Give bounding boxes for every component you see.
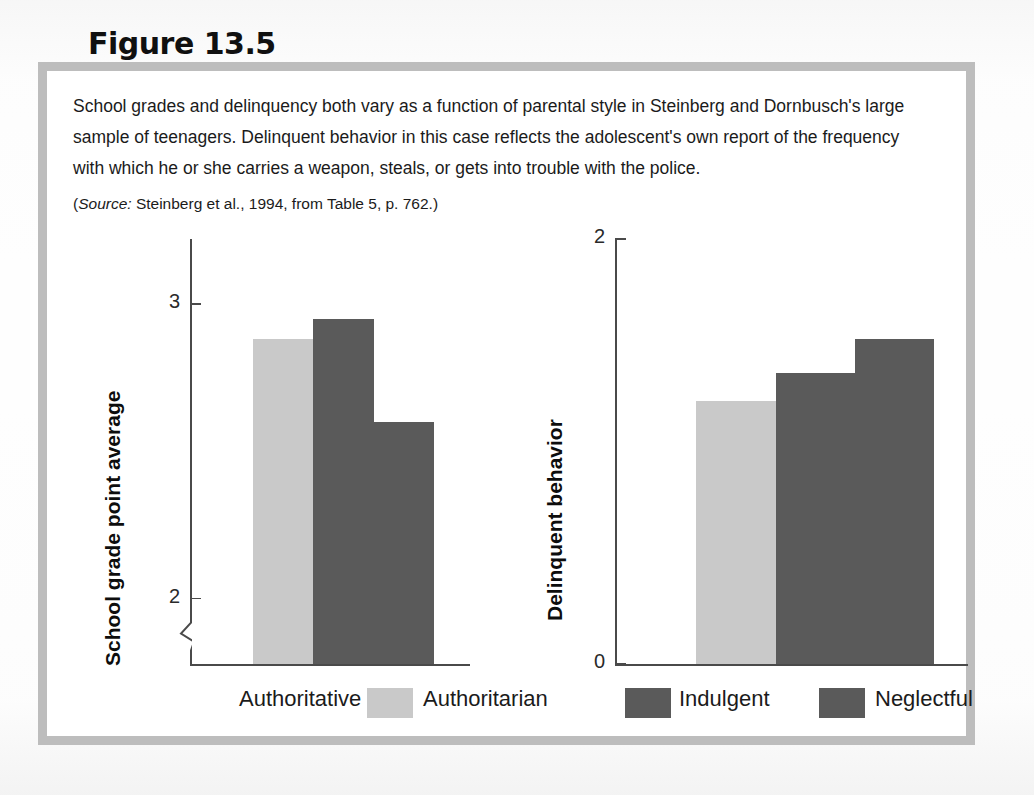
y-axis-tick-label: 3: [146, 290, 180, 313]
y-axis-tick: [615, 663, 626, 665]
figure-panel: School grades and delinquency both vary …: [47, 71, 966, 736]
bar-authoritarian: [253, 339, 314, 664]
source-label: Source:: [78, 195, 131, 212]
x-axis-line: [190, 664, 470, 666]
bar-neglectful: [855, 339, 934, 664]
y-axis-tick-label: 2: [146, 585, 180, 608]
chart-school-grades: School grade point average 23: [87, 221, 517, 676]
figure-caption: School grades and delinquency both vary …: [73, 91, 935, 184]
legend-label-neglectful: Neglectful: [875, 686, 973, 712]
y-axis-tick: [615, 238, 626, 240]
legend: AuthoritativeAuthoritarianIndulgentNegle…: [47, 686, 966, 736]
y-axis-line: [615, 239, 617, 664]
y-axis-tick: [190, 303, 201, 305]
bar-authoritative: [192, 599, 253, 664]
legend-swatch-indulgent: [625, 688, 671, 718]
legend-swatch-authoritative: [187, 688, 233, 718]
bar-authoritarian: [696, 401, 775, 665]
legend-swatch-authoritarian: [367, 688, 413, 718]
legend-label-authoritarian: Authoritarian: [423, 686, 548, 712]
charts-container: School grade point average 23 Delinquent…: [47, 221, 966, 676]
figure-source: (Source: Steinberg et al., 1994, from Ta…: [73, 195, 438, 213]
x-axis-line: [615, 664, 968, 666]
legend-label-authoritative: Authoritative: [239, 686, 361, 712]
chart-delinquent-behavior: Delinquent behavior 02: [527, 221, 957, 676]
y-axis-tick-label: 0: [571, 650, 605, 673]
bar-indulgent: [776, 373, 855, 664]
bar-indulgent: [313, 319, 374, 664]
legend-swatch-neglectful: [819, 688, 865, 718]
source-close-paren: ): [433, 195, 438, 212]
y-axis-line: [190, 239, 192, 616]
plot-area-left: 23: [192, 239, 434, 664]
y-axis-tick-label: 2: [571, 225, 605, 248]
source-citation: Steinberg et al., 1994, from Table 5, p.…: [132, 195, 433, 212]
legend-label-indulgent: Indulgent: [679, 686, 770, 712]
plot-area-right: 02: [617, 239, 934, 664]
y-axis-title-right: Delinquent behavior: [543, 419, 567, 621]
bar-neglectful: [374, 422, 435, 664]
figure-number: Figure 13.5: [88, 26, 276, 61]
figure-frame: School grades and delinquency both vary …: [38, 62, 975, 745]
y-axis-title-left: School grade point average: [101, 391, 125, 666]
